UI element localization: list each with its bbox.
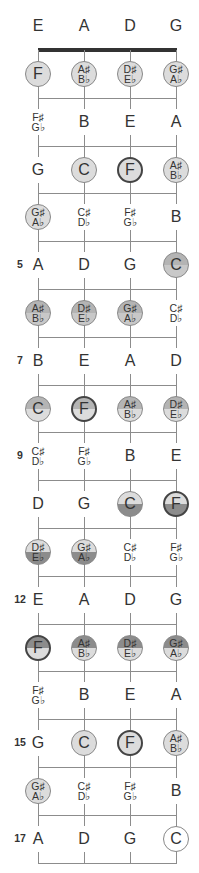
fret-line — [38, 432, 177, 433]
note-cell: E — [69, 348, 99, 374]
note-label: F — [33, 66, 43, 82]
fret-number: 5 — [12, 258, 28, 270]
note-cell: A — [161, 109, 191, 135]
open-string-label: E — [23, 17, 53, 35]
fret-line — [38, 241, 177, 242]
fret-line — [38, 385, 177, 386]
note-label: B — [125, 448, 136, 464]
note-label: G♭ — [169, 552, 182, 562]
note-cell: E — [161, 443, 191, 469]
note-cell: B — [69, 109, 99, 135]
note-label: D — [32, 496, 44, 512]
note-cell: B — [115, 443, 145, 469]
open-string-label: G — [161, 17, 191, 35]
note-marker: C — [163, 252, 189, 278]
note-label: G♭ — [123, 791, 136, 801]
note-label: C — [170, 257, 182, 273]
note-marker: C — [25, 396, 51, 422]
note-label: C — [124, 496, 136, 512]
open-string-label: A — [69, 17, 99, 35]
fret-line — [38, 289, 177, 290]
note-label: C — [78, 735, 90, 751]
note-marker: F — [25, 61, 51, 87]
note-label: B — [79, 114, 90, 130]
note-cell: D — [69, 826, 99, 852]
note-label: D♭ — [32, 456, 45, 466]
note-label: A — [33, 831, 44, 847]
note-cell: G — [69, 491, 99, 517]
note-label: B♭ — [78, 648, 90, 658]
fret-line — [38, 719, 177, 720]
fret-line — [38, 98, 177, 99]
note-cell: G — [23, 157, 53, 183]
note-cell: B — [161, 204, 191, 230]
note-label: B♭ — [78, 74, 90, 84]
fretboard-diagram: E A D G FA♯B♭D♯E♭G♯A♭F♯G♭BEAGCFA♯B♭G♯A♭C… — [0, 0, 199, 873]
note-label: C — [170, 831, 182, 847]
note-label: E — [125, 687, 136, 703]
fret-number: 7 — [12, 354, 28, 366]
note-cell: B — [69, 682, 99, 708]
note-label: E♭ — [124, 74, 136, 84]
fret-line — [38, 671, 177, 672]
note-label: A♭ — [32, 791, 44, 801]
note-marker: G♯A♭ — [71, 539, 97, 565]
note-label: E — [79, 353, 90, 369]
note-cell: C♯D♭ — [115, 539, 145, 565]
note-marker: F — [117, 730, 143, 756]
fret-line — [38, 576, 177, 577]
note-marker: D♯E♭ — [117, 635, 143, 661]
note-cell: C♯D♭ — [69, 204, 99, 230]
note-label: A — [125, 353, 136, 369]
fret-number: 12 — [12, 593, 28, 605]
note-label: B♭ — [32, 313, 44, 323]
note-label: E♭ — [124, 648, 136, 658]
fret-line — [38, 624, 177, 625]
note-label: B — [79, 687, 90, 703]
nut — [38, 48, 177, 52]
note-cell: G — [161, 587, 191, 613]
note-cell: D — [69, 252, 99, 278]
note-label: G — [32, 735, 44, 751]
note-label: A — [171, 687, 182, 703]
note-label: B♭ — [170, 743, 182, 753]
note-marker: D♯E♭ — [71, 300, 97, 326]
note-label: D — [78, 831, 90, 847]
note-label: F — [171, 496, 181, 512]
note-label: G♭ — [31, 122, 44, 132]
note-label: G — [32, 162, 44, 178]
note-label: A♭ — [32, 217, 44, 227]
note-label: G♭ — [77, 456, 90, 466]
note-marker: D♯E♭ — [117, 61, 143, 87]
fret-line — [38, 146, 177, 147]
note-label: E — [125, 114, 136, 130]
fret-number: 15 — [12, 736, 28, 748]
note-marker: D♯E♭ — [25, 539, 51, 565]
note-label: F — [125, 735, 135, 751]
note-label: E♭ — [32, 552, 44, 562]
note-marker: C — [71, 157, 97, 183]
note-marker: G♯A♭ — [117, 300, 143, 326]
note-label: A — [33, 257, 44, 273]
note-label: A♭ — [78, 552, 90, 562]
note-label: A — [171, 114, 182, 130]
note-label: D♭ — [78, 791, 91, 801]
note-cell: F♯G♭ — [69, 443, 99, 469]
note-marker: C — [71, 730, 97, 756]
note-label: F — [79, 401, 89, 417]
note-label: A — [79, 592, 90, 608]
note-marker: G♯A♭ — [25, 778, 51, 804]
note-cell: F♯G♭ — [115, 204, 145, 230]
note-label: A♭ — [170, 648, 182, 658]
note-label: D — [170, 353, 182, 369]
note-label: C — [32, 401, 44, 417]
fret-line — [38, 863, 177, 864]
note-label: B♭ — [170, 170, 182, 180]
note-cell: C♯D♭ — [69, 778, 99, 804]
note-marker: F — [25, 635, 51, 661]
fret-line — [38, 480, 177, 481]
note-marker: A♯B♭ — [163, 157, 189, 183]
note-marker: G♯A♭ — [25, 204, 51, 230]
note-marker: F — [163, 491, 189, 517]
note-marker: F — [71, 396, 97, 422]
